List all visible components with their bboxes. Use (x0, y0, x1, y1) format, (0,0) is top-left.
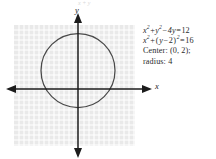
eq1-term: 4y (168, 26, 176, 35)
center-value: (0, 2); (170, 46, 191, 55)
y-axis-arrow-down-icon (74, 148, 82, 158)
eq2-rhs: 16 (185, 36, 193, 45)
y-axis-label: y (75, 5, 79, 15)
radius-line: radius: 4 (143, 57, 216, 67)
eq1-rhs: 12 (181, 26, 189, 35)
equation-standard: x2+(y−2)2=16 (143, 36, 216, 46)
x-axis-arrow-right-icon (142, 85, 152, 93)
center-line: Center: (0, 2); (143, 46, 216, 56)
circle-graph-figure: x + y (0, 0, 216, 159)
coordinate-plane (0, 0, 216, 159)
x-axis-arrow-left-icon (6, 85, 16, 93)
x-axis-label: x (155, 81, 159, 91)
radius-value: 4 (168, 57, 172, 66)
radius-label: radius: (143, 57, 166, 66)
center-label: Center: (143, 46, 168, 55)
annotation-block: x2+y2−4y=12 x2+(y−2)2=16 Center: (0, 2);… (143, 26, 216, 67)
